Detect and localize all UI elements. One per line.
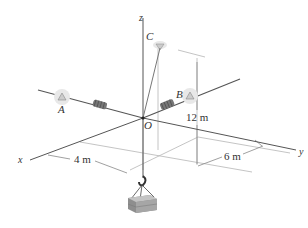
hook-icon <box>139 176 146 185</box>
y-axis-label: y <box>298 146 304 157</box>
dimension-4m: 4 m <box>74 153 91 165</box>
spring-oa-icon <box>92 99 107 109</box>
point-b-label: B <box>176 88 183 100</box>
anchor-b-icon <box>182 88 198 104</box>
diagram-canvas: z x y C A B O 4 m 6 m 12 m <box>0 0 308 228</box>
axes <box>30 18 296 160</box>
construction-lines <box>80 45 290 172</box>
dimension-12m: 12 m <box>186 111 209 123</box>
statics-diagram: z x y C A B O 4 m 6 m 12 m <box>0 0 308 228</box>
crate-icon <box>128 195 157 213</box>
point-a-label: A <box>57 103 65 115</box>
x-axis-label: x <box>17 154 23 165</box>
dimension-6m: 6 m <box>224 150 241 162</box>
z-axis-label: z <box>138 12 143 23</box>
y-axis <box>143 118 296 150</box>
point-c-label: C <box>146 30 154 42</box>
cable-oc <box>143 48 160 118</box>
origin-label: O <box>144 119 152 131</box>
